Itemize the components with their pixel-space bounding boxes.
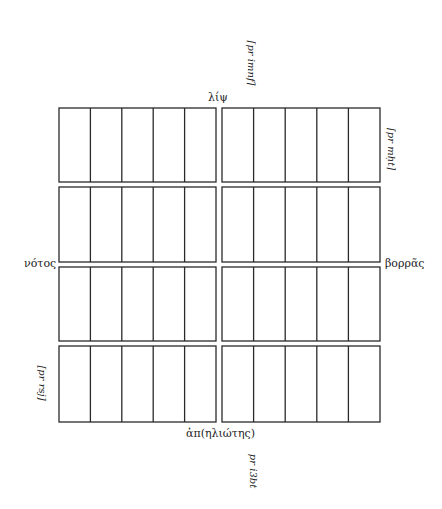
annotation-pr-imnf: ⌈pr imnf⌉ — [246, 41, 256, 86]
label-left-notos: νότος — [24, 258, 56, 269]
plot-block-r4-h1 — [59, 346, 216, 422]
plot-block-r3-h2 — [222, 267, 380, 341]
plot-block-r2-h1 — [59, 187, 216, 262]
plot-block-r2-h2 — [222, 187, 380, 262]
annotation-pr-i3bt: pr i3bt — [248, 454, 258, 488]
annotation-pr-mht: ⌈pr mḥt⌉ — [386, 128, 396, 170]
plot-block-r1-h2 — [222, 108, 380, 182]
label-bottom-apeliotes: ἀπ(ηλιώτης) — [186, 428, 255, 439]
label-right-borras: βορρᾶς — [385, 258, 425, 269]
annotation-pr-rsj: [pr rsj] — [37, 365, 47, 400]
plot-block-r3-h1 — [59, 267, 216, 341]
plot-block-r1-h1 — [59, 108, 216, 182]
plot-block-r4-h2 — [222, 346, 380, 422]
label-top-lips: λίψ — [208, 92, 228, 103]
